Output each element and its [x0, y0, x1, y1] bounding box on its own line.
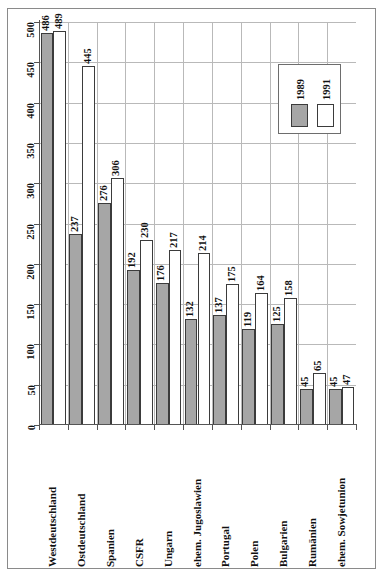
bar-value-label-text: 445 — [82, 49, 93, 65]
y-tick-label-text: 250 — [26, 224, 37, 240]
bar-value-label-text: 237 — [69, 216, 80, 232]
x-axis-line — [39, 424, 356, 425]
bar: 47 — [342, 387, 355, 425]
category-label-text: Rumänien — [306, 518, 318, 567]
bar-value-label-text: 486 — [40, 16, 51, 32]
bar: 137 — [213, 315, 226, 425]
category-label-text: ehem. Sowjetunion — [335, 478, 347, 567]
bar-value-label-text: 164 — [255, 275, 266, 291]
category-label-text: Polen — [248, 541, 260, 567]
bar-value-label-text: 65 — [312, 360, 323, 371]
bar: 45 — [300, 389, 313, 425]
category-label-text: Spanien — [104, 529, 116, 567]
bar: 230 — [140, 240, 153, 425]
bar-value-label-text: 132 — [184, 301, 195, 317]
y-tick-label-text: 350 — [26, 143, 37, 159]
bar: 192 — [127, 270, 140, 425]
bar-value-label-text: 214 — [197, 235, 208, 251]
y-tick-label-text: 300 — [26, 183, 37, 199]
category-label-text: Westdeutschland — [46, 487, 58, 567]
bar-value-label-text: 175 — [226, 266, 237, 282]
bar: 214 — [198, 253, 211, 425]
bar: 164 — [255, 293, 268, 425]
y-tick-label-text: 150 — [26, 304, 37, 320]
bar: 132 — [185, 319, 198, 425]
category-label-text: Portugal — [219, 526, 231, 567]
bar-value-label-text: 276 — [98, 185, 109, 201]
bar: 175 — [226, 284, 239, 425]
bar-value-label-text: 192 — [126, 253, 137, 269]
bar: 306 — [111, 178, 124, 425]
legend-swatch — [291, 104, 308, 127]
gridline-horizontal — [39, 22, 356, 23]
bar: 445 — [82, 66, 95, 425]
y-axis-line — [39, 20, 40, 425]
category-label-text: ehem. Jugoslawien — [191, 479, 203, 567]
x-tick-mark — [356, 424, 357, 430]
legend-label: 1989 — [294, 79, 305, 100]
bar-value-label-text: 306 — [110, 161, 121, 177]
bar: 125 — [271, 324, 284, 425]
bar-value-label-text: 137 — [213, 297, 224, 313]
category-label-text: Bulgarien — [277, 521, 289, 567]
bar-value-label-text: 45 — [328, 376, 339, 387]
bar: 45 — [329, 389, 342, 425]
chart-legend: 19891991 — [278, 64, 341, 134]
bar: 237 — [69, 234, 82, 425]
category-label-text: CSFR — [133, 538, 145, 567]
legend-swatch — [317, 104, 334, 127]
bar-value-label-text: 176 — [155, 265, 166, 281]
bar: 119 — [242, 329, 255, 425]
bar: 158 — [284, 298, 297, 425]
bar: 176 — [156, 283, 169, 425]
y-tick-label-text: 0 — [26, 425, 37, 430]
bar: 486 — [41, 33, 54, 425]
bar-value-label-text: 217 — [168, 232, 179, 248]
bar-value-label-text: 158 — [283, 280, 294, 296]
category-label-text: Ostdeutschland — [75, 494, 87, 567]
bar: 217 — [169, 250, 182, 425]
bar-value-label-text: 45 — [299, 376, 310, 387]
bar: 489 — [53, 31, 66, 425]
y-tick-label-text: 100 — [26, 344, 37, 360]
bar-value-label-text: 125 — [271, 307, 282, 323]
bar-value-label-text: 230 — [139, 222, 150, 238]
category-axis-labels: WestdeutschlandOstdeutschlandSpanienCSFR… — [39, 429, 356, 559]
y-tick-label-text: 450 — [26, 62, 37, 78]
y-tick-label-text: 200 — [26, 264, 37, 280]
chart-figure: 4864892374452763061922301762171322141371… — [0, 0, 385, 579]
y-tick-label-text: 400 — [26, 103, 37, 119]
bar-value-label-text: 47 — [341, 375, 352, 386]
category-label-text: Ungarn — [162, 531, 174, 567]
bar-value-label-text: 119 — [242, 312, 253, 327]
bar: 276 — [98, 203, 111, 425]
legend-label: 1991 — [320, 79, 331, 100]
y-tick-label-text: 500 — [26, 22, 37, 38]
y-tick-label-text: 50 — [26, 385, 37, 396]
bar-value-label-text: 489 — [53, 13, 64, 29]
bar: 65 — [313, 373, 326, 425]
